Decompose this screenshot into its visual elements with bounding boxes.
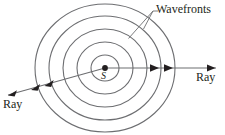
wavefronts-label: Wavefronts xyxy=(156,3,211,15)
diagram-canvas xyxy=(0,0,225,135)
wavefronts-ray-diagram: Wavefronts Ray Ray S xyxy=(0,0,225,135)
ray-left-label: Ray xyxy=(3,98,22,110)
ray-right-arrowhead-1 xyxy=(150,64,159,72)
wavefronts-leader-lines xyxy=(129,11,159,39)
source-label: S xyxy=(101,71,106,81)
leader-line-branch-a xyxy=(129,11,154,39)
ray-left-group xyxy=(8,68,105,97)
ray-left-line xyxy=(8,68,105,95)
ray-right-label: Ray xyxy=(196,71,215,83)
ray-left-arrowhead-3 xyxy=(8,90,17,96)
ray-right-arrowhead-2 xyxy=(164,64,173,72)
